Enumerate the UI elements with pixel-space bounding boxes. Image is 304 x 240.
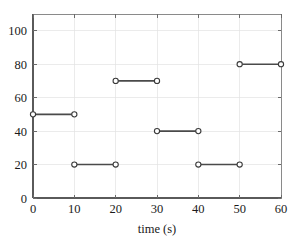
x-axis-title: time (s) [138, 222, 177, 236]
y-tick-label: 0 [21, 192, 27, 206]
data-point-marker [196, 162, 201, 167]
data-point-marker [30, 112, 35, 117]
data-point-marker [196, 128, 201, 133]
data-point-marker [237, 62, 242, 67]
chart-screenshot: 0102030405060 020406080100 time (s) [0, 0, 304, 240]
x-tick-label: 60 [275, 202, 288, 216]
y-tick-label: 80 [15, 58, 28, 72]
y-tick-label: 100 [8, 24, 27, 38]
y-tick-label: 60 [15, 91, 28, 105]
data-point-marker [72, 112, 77, 117]
data-point-marker [113, 78, 118, 83]
data-point-marker [72, 162, 77, 167]
data-point-marker [154, 78, 159, 83]
data-point-marker [237, 162, 242, 167]
step-plot: 0102030405060 020406080100 time (s) [0, 0, 304, 240]
x-tick-label: 30 [151, 202, 164, 216]
data-point-marker [154, 128, 159, 133]
x-tick-label: 50 [233, 202, 246, 216]
data-point-marker [113, 162, 118, 167]
x-tick-label: 0 [30, 202, 36, 216]
y-tick-label: 40 [15, 125, 28, 139]
x-tick-label: 20 [109, 202, 122, 216]
y-tick-label: 20 [15, 158, 28, 172]
x-tick-label: 40 [192, 202, 205, 216]
x-tick-label: 10 [68, 202, 81, 216]
data-point-marker [278, 62, 283, 67]
